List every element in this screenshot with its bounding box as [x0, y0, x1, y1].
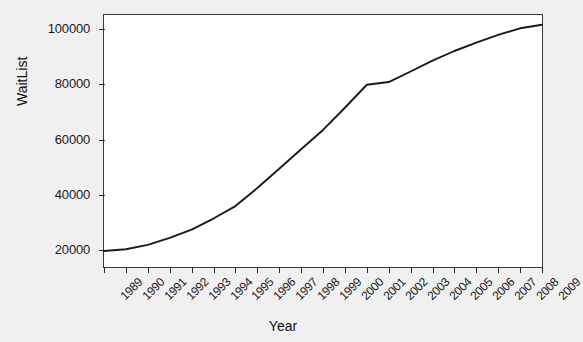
x-axis-title: Year	[0, 318, 566, 334]
series-line-waitlist	[104, 25, 542, 251]
